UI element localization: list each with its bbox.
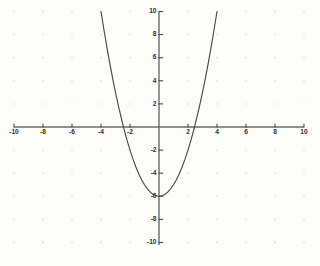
grid-dot bbox=[274, 80, 275, 81]
grid-dot bbox=[274, 173, 275, 174]
grid-dot bbox=[42, 173, 43, 174]
grid-dot bbox=[187, 219, 188, 220]
y-tick-label: 8 bbox=[153, 30, 157, 37]
grid-dot bbox=[71, 57, 72, 58]
x-tick-label: -10 bbox=[9, 128, 19, 135]
grid-dot bbox=[71, 80, 72, 81]
x-tick-label: -6 bbox=[69, 128, 75, 135]
grid-dot bbox=[187, 34, 188, 35]
graph-container: -10-8-6-4-2246810 108642-2-4-6-8-10 bbox=[0, 0, 320, 266]
grid-dot bbox=[303, 57, 304, 58]
grid-dot bbox=[13, 103, 14, 104]
grid-dot bbox=[274, 11, 275, 12]
grid-dot bbox=[303, 219, 304, 220]
grid-dot bbox=[303, 242, 304, 243]
grid-dot bbox=[13, 196, 14, 197]
grid-dot bbox=[42, 34, 43, 35]
grid-dot bbox=[245, 219, 246, 220]
grid-dot bbox=[100, 34, 101, 35]
grid-dot bbox=[274, 242, 275, 243]
grid-dot bbox=[216, 34, 217, 35]
grid-dot bbox=[100, 196, 101, 197]
grid-dot bbox=[13, 219, 14, 220]
grid-dot bbox=[216, 219, 217, 220]
grid-dot bbox=[129, 103, 130, 104]
cartesian-plot: -10-8-6-4-2246810 108642-2-4-6-8-10 bbox=[0, 0, 320, 266]
grid-dot bbox=[71, 242, 72, 243]
grid-dot bbox=[100, 242, 101, 243]
grid-dot bbox=[187, 57, 188, 58]
grid-dot bbox=[129, 80, 130, 81]
grid-dot bbox=[245, 173, 246, 174]
grid-dot bbox=[129, 219, 130, 220]
grid-dot bbox=[129, 173, 130, 174]
grid-dot bbox=[42, 149, 43, 150]
grid-dot bbox=[42, 219, 43, 220]
grid-dot bbox=[245, 80, 246, 81]
grid-dot bbox=[303, 173, 304, 174]
grid-dot bbox=[13, 34, 14, 35]
grid-dot bbox=[187, 196, 188, 197]
grid-dot bbox=[129, 34, 130, 35]
grid-dot bbox=[13, 80, 14, 81]
grid-dot bbox=[13, 57, 14, 58]
grid-dot bbox=[71, 34, 72, 35]
x-tick-label: 8 bbox=[273, 128, 277, 135]
x-tick-label: 2 bbox=[186, 128, 190, 135]
grid-dot bbox=[245, 242, 246, 243]
grid-dot bbox=[13, 173, 14, 174]
grid-dot bbox=[13, 242, 14, 243]
grid-dot bbox=[245, 103, 246, 104]
grid-dot bbox=[274, 34, 275, 35]
grid-dot bbox=[187, 80, 188, 81]
grid-dot bbox=[71, 149, 72, 150]
x-tick-label: 4 bbox=[215, 128, 219, 135]
grid-dot bbox=[100, 149, 101, 150]
grid-dot bbox=[274, 219, 275, 220]
grid-dot bbox=[100, 80, 101, 81]
grid-dot bbox=[245, 11, 246, 12]
grid-dot bbox=[42, 11, 43, 12]
y-tick-label: -4 bbox=[151, 169, 157, 176]
grid-dot bbox=[71, 103, 72, 104]
y-tick-label: 2 bbox=[153, 100, 157, 107]
grid-dot bbox=[216, 57, 217, 58]
x-tick-label: 6 bbox=[244, 128, 248, 135]
grid-dot bbox=[13, 11, 14, 12]
grid-dot bbox=[100, 219, 101, 220]
grid-dot bbox=[71, 11, 72, 12]
y-tick-label: -6 bbox=[151, 192, 157, 199]
grid-dot bbox=[274, 149, 275, 150]
grid-dot bbox=[129, 196, 130, 197]
grid-dot bbox=[303, 80, 304, 81]
grid-dot bbox=[42, 103, 43, 104]
grid-dot bbox=[303, 149, 304, 150]
grid-dot bbox=[274, 196, 275, 197]
x-tick-label: -8 bbox=[40, 128, 46, 135]
grid-dot bbox=[42, 242, 43, 243]
grid-dot bbox=[216, 196, 217, 197]
y-tick-label: 4 bbox=[153, 77, 157, 84]
grid-dot bbox=[129, 11, 130, 12]
x-tick-label: 10 bbox=[300, 128, 308, 135]
grid-dot bbox=[42, 57, 43, 58]
grid-dot bbox=[216, 80, 217, 81]
grid-dot bbox=[303, 34, 304, 35]
grid-dot bbox=[129, 242, 130, 243]
y-tick-label: 10 bbox=[149, 7, 157, 14]
y-tick-label: -10 bbox=[147, 238, 157, 245]
grid-dot bbox=[71, 173, 72, 174]
grid-dot bbox=[71, 219, 72, 220]
grid-dot bbox=[187, 173, 188, 174]
grid-dot bbox=[216, 103, 217, 104]
grid-dot bbox=[216, 173, 217, 174]
grid-dot bbox=[245, 57, 246, 58]
y-tick-label: 6 bbox=[153, 53, 157, 60]
grid-dot bbox=[100, 57, 101, 58]
grid-dot bbox=[129, 57, 130, 58]
grid-dot bbox=[13, 149, 14, 150]
grid-dot bbox=[303, 196, 304, 197]
x-tick-label: -4 bbox=[98, 128, 104, 135]
grid-dot bbox=[100, 103, 101, 104]
x-tick-label: -2 bbox=[127, 128, 133, 135]
